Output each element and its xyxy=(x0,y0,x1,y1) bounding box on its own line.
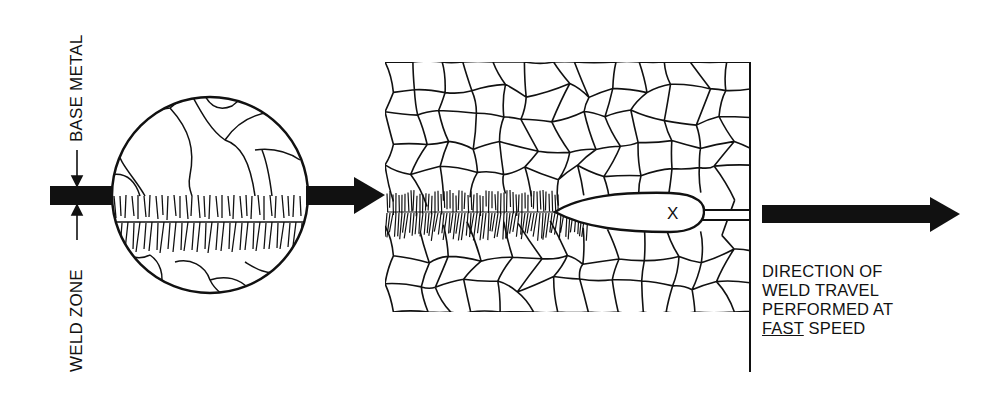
grain-structure-block: X xyxy=(385,61,758,372)
base-metal-label: BASE METAL xyxy=(67,35,87,143)
direction-arrow xyxy=(762,197,960,232)
weld-zone-label: WELD ZONE xyxy=(67,269,87,372)
caption-fast-emphasis: FAST xyxy=(762,319,804,337)
plate-bar-left xyxy=(50,186,114,205)
caption-line-4: FAST SPEED xyxy=(762,319,893,338)
caption-line-1: DIRECTION OF xyxy=(762,262,893,281)
pool-marker: X xyxy=(667,204,678,223)
caption-line-2: WELD TRAVEL xyxy=(762,281,893,300)
magnified-circle xyxy=(110,90,310,298)
caption-line-3: PERFORMED AT xyxy=(762,300,893,319)
travel-caption: DIRECTION OF WELD TRAVEL PERFORMED AT FA… xyxy=(762,262,893,338)
caption-speed: SPEED xyxy=(804,319,866,337)
arrow-middle xyxy=(306,177,385,214)
weld-pool xyxy=(555,193,704,232)
